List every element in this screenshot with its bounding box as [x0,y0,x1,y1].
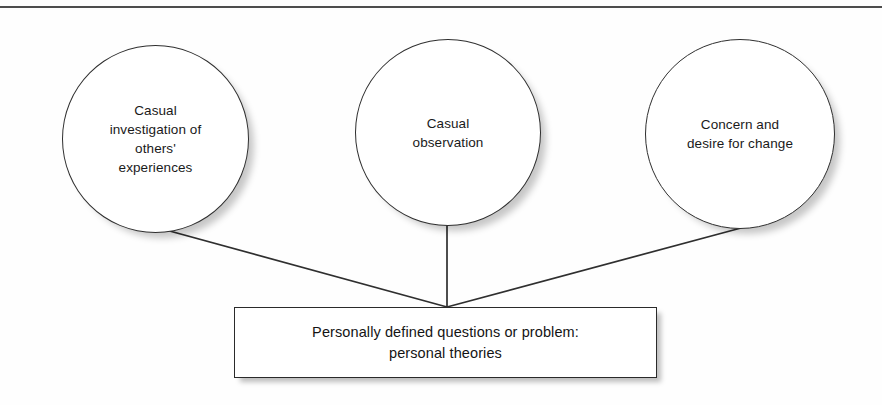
node-personally-defined-questions: Personally defined questions or problem:… [234,307,657,378]
top-divider-rule [0,6,882,8]
diagram-canvas: Casual investigation of others' experien… [0,0,882,405]
node-concern-desire-change-label: Concern and desire for change [646,115,834,153]
node-casual-observation-label: Casual observation [369,114,527,152]
node-casual-observation: Casual observation [355,39,541,226]
edge-left-line [155,227,447,307]
node-personally-defined-questions-label: Personally defined questions or problem:… [302,322,589,364]
edge-right-line [447,228,741,307]
node-casual-investigation: Casual investigation of others' experien… [62,45,249,233]
node-concern-desire-change: Concern and desire for change [645,39,835,229]
node-casual-investigation-label: Casual investigation of others' experien… [73,101,239,177]
